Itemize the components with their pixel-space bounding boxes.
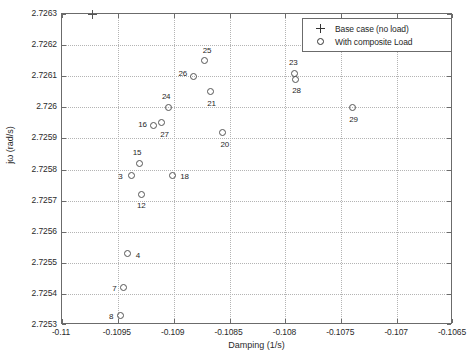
data-point-label: 26 — [179, 69, 188, 78]
gridline-vertical — [285, 14, 286, 323]
data-point-marker — [128, 172, 135, 179]
data-point-marker — [190, 73, 197, 80]
gridline-horizontal — [62, 138, 451, 139]
data-point-label: 18 — [180, 171, 189, 180]
gridline-vertical — [118, 14, 119, 323]
data-point-label: 7 — [112, 283, 116, 292]
y-axis-tick-mark — [447, 107, 451, 108]
x-axis-tick-mark — [230, 319, 231, 323]
y-axis-tick-mark — [447, 201, 451, 202]
gridline-horizontal — [62, 263, 451, 264]
y-axis-tick-label: 2.7261 — [32, 70, 57, 80]
y-axis-tick-label: 2.7263 — [32, 8, 57, 18]
legend-entry-composite-load: With composite Load — [305, 35, 447, 48]
data-point-marker — [158, 119, 165, 126]
x-axis-tick-mark — [118, 14, 119, 18]
y-axis-tick-mark — [447, 263, 451, 264]
y-axis-tick-label: 2.7262 — [32, 39, 57, 49]
data-point-marker — [117, 312, 124, 319]
x-axis-tick-label: -0.109 — [161, 327, 185, 337]
y-axis-tick-mark — [62, 170, 66, 171]
x-axis-tick-label: -0.1075 — [326, 327, 354, 337]
y-axis-tick-label: 2.7254 — [32, 288, 57, 298]
x-axis-tick-mark — [452, 319, 453, 323]
y-axis-tick-label: 2.726 — [36, 101, 57, 111]
chart-legend: Base case (no load) With composite Load — [302, 18, 452, 52]
data-point-marker — [292, 76, 299, 83]
y-axis-tick-mark — [447, 170, 451, 171]
x-axis-tick-mark — [62, 319, 63, 323]
y-axis-tick-mark — [62, 263, 66, 264]
x-axis-tick-mark — [174, 319, 175, 323]
data-point-marker — [150, 122, 157, 129]
data-point-label: 28 — [292, 86, 301, 95]
y-axis-tick-mark — [62, 324, 66, 325]
data-point-marker — [138, 191, 145, 198]
x-axis-tick-mark — [341, 319, 342, 323]
y-axis-tick-mark — [447, 138, 451, 139]
data-point-label: 8 — [109, 311, 113, 320]
x-axis-tick-label: -0.107 — [384, 327, 408, 337]
y-axis-tick-mark — [62, 201, 66, 202]
x-axis-tick-mark — [397, 319, 398, 323]
y-axis-tick-label: 2.7256 — [32, 226, 57, 236]
y-axis-tick-mark — [447, 232, 451, 233]
data-point-marker — [349, 104, 356, 111]
data-point-label: 25 — [203, 45, 212, 54]
y-axis-tick-mark — [447, 294, 451, 295]
data-point-label: 4 — [136, 251, 140, 260]
data-point-marker — [169, 172, 176, 179]
x-axis-tick-label: -0.1085 — [214, 327, 242, 337]
legend-entry-base-case: Base case (no load) — [305, 22, 447, 35]
gridline-horizontal — [62, 294, 451, 295]
x-axis-tick-labels: -0.11-0.1095-0.109-0.1085-0.108-0.1075-0… — [61, 327, 452, 341]
y-axis-tick-mark — [62, 294, 66, 295]
x-axis-title: Damping (1/s) — [61, 340, 452, 350]
gridline-horizontal — [62, 76, 451, 77]
plus-marker-icon — [305, 22, 335, 35]
y-axis-tick-mark — [447, 76, 451, 77]
data-point-marker — [120, 284, 127, 291]
legend-entry-label: Base case (no load) — [335, 24, 409, 34]
x-axis-tick-mark — [285, 319, 286, 323]
y-axis-tick-mark — [62, 232, 66, 233]
x-axis-tick-label: -0.11 — [52, 327, 70, 337]
data-point-marker — [165, 104, 172, 111]
gridline-horizontal — [62, 201, 451, 202]
gridline-vertical — [174, 14, 175, 323]
y-axis-tick-mark — [62, 76, 66, 77]
circle-marker-icon — [305, 35, 335, 48]
plot-area: 347812151618202123242526272829 — [61, 13, 452, 324]
y-axis-tick-mark — [447, 324, 451, 325]
y-axis-tick-mark — [62, 14, 66, 15]
data-point-label: 16 — [138, 119, 147, 128]
y-axis-tick-mark — [447, 14, 451, 15]
y-axis-tick-label: 2.7259 — [32, 132, 57, 142]
data-point-label: 23 — [289, 58, 298, 67]
x-axis-tick-mark — [174, 14, 175, 18]
legend-entry-label: With composite Load — [335, 37, 412, 47]
data-point-label: 15 — [133, 148, 142, 157]
scatter-chart-figure: 347812151618202123242526272829 2.72532.7… — [0, 0, 471, 362]
y-axis-tick-label: 2.7257 — [32, 195, 57, 205]
x-axis-tick-mark — [118, 319, 119, 323]
data-point-label: 24 — [162, 92, 171, 101]
gridline-horizontal — [62, 107, 451, 108]
data-point-marker — [207, 88, 214, 95]
gridline-vertical — [341, 14, 342, 323]
data-point-marker — [219, 129, 226, 136]
y-axis-tick-label: 2.7258 — [32, 164, 57, 174]
data-point-label: 29 — [349, 115, 358, 124]
x-axis-tick-label: -0.108 — [273, 327, 297, 337]
x-axis-tick-label: -0.1095 — [103, 327, 131, 337]
x-axis-tick-label: -0.1065 — [438, 327, 466, 337]
gridline-vertical — [397, 14, 398, 323]
y-axis-tick-mark — [62, 107, 66, 108]
data-point-label: 12 — [137, 201, 146, 210]
data-point-label: 3 — [118, 171, 122, 180]
data-point-label: 27 — [160, 129, 169, 138]
data-point-marker — [136, 160, 143, 167]
data-point-marker — [124, 250, 131, 257]
y-axis-tick-mark — [62, 138, 66, 139]
y-axis-title: jω (rad/s) — [5, 105, 15, 185]
